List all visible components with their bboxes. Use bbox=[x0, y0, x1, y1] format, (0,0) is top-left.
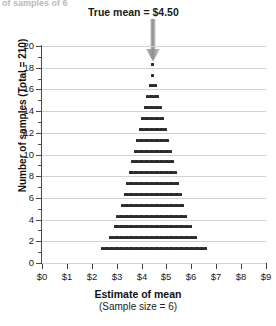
data-point bbox=[151, 63, 154, 66]
y-tick bbox=[38, 144, 41, 145]
gridline bbox=[42, 155, 266, 156]
x-axis-subtitle: (Sample size = 6) bbox=[0, 301, 276, 312]
x-tick bbox=[241, 264, 242, 269]
y-tick bbox=[38, 57, 41, 58]
x-tick bbox=[142, 264, 143, 269]
gridline bbox=[42, 89, 266, 90]
data-point bbox=[204, 247, 207, 250]
data-point bbox=[156, 95, 159, 98]
gridline bbox=[42, 220, 266, 221]
x-tick-label: $9 bbox=[251, 271, 276, 282]
y-tick bbox=[36, 220, 41, 221]
data-point bbox=[176, 182, 179, 185]
y-tick bbox=[36, 68, 41, 69]
gridline bbox=[42, 263, 266, 264]
true-mean-annotation: True mean = $4.50 bbox=[88, 6, 179, 18]
gridline bbox=[42, 176, 266, 177]
y-tick bbox=[38, 122, 41, 123]
data-point bbox=[189, 225, 192, 228]
data-point bbox=[174, 171, 177, 174]
y-tick bbox=[38, 165, 41, 166]
gridline bbox=[42, 111, 266, 112]
down-arrow-icon bbox=[145, 19, 161, 62]
y-tick bbox=[38, 252, 41, 253]
y-tick bbox=[38, 209, 41, 210]
data-point bbox=[164, 128, 167, 131]
data-point bbox=[171, 160, 174, 163]
y-axis-title: Number of samples (Total = 210) bbox=[17, 36, 28, 196]
cut-off-caption: of samples of 6 bbox=[2, 0, 68, 8]
gridline bbox=[42, 133, 266, 134]
data-point bbox=[154, 84, 157, 87]
y-tick bbox=[36, 89, 41, 90]
y-tick bbox=[38, 230, 41, 231]
x-tick bbox=[117, 264, 118, 269]
gridline bbox=[42, 241, 266, 242]
x-tick bbox=[42, 264, 43, 269]
data-point bbox=[184, 215, 187, 218]
x-tick bbox=[67, 264, 68, 269]
y-tick bbox=[38, 100, 41, 101]
y-tick bbox=[36, 155, 41, 156]
x-tick bbox=[92, 264, 93, 269]
y-tick bbox=[36, 111, 41, 112]
y-tick-label: 2 bbox=[2, 235, 34, 246]
y-tick bbox=[36, 176, 41, 177]
gridline bbox=[42, 198, 266, 199]
x-axis-title: Estimate of mean bbox=[0, 288, 276, 300]
data-point bbox=[151, 74, 154, 77]
data-point bbox=[181, 204, 184, 207]
data-point bbox=[194, 236, 197, 239]
gridline bbox=[42, 46, 266, 47]
x-tick bbox=[191, 264, 192, 269]
y-tick bbox=[38, 187, 41, 188]
gridline bbox=[42, 68, 266, 69]
data-point bbox=[159, 106, 162, 109]
y-tick bbox=[36, 46, 41, 47]
data-point bbox=[169, 150, 172, 153]
data-point bbox=[166, 139, 169, 142]
y-tick-label: 0 bbox=[2, 257, 34, 268]
y-tick-label: 4 bbox=[2, 214, 34, 225]
x-tick bbox=[166, 264, 167, 269]
dotplot-figure: of samples of 6 True mean = $4.50 024681… bbox=[0, 0, 276, 326]
y-tick bbox=[36, 263, 41, 264]
x-tick bbox=[266, 264, 267, 269]
y-tick bbox=[38, 79, 41, 80]
y-tick bbox=[36, 133, 41, 134]
y-tick bbox=[36, 241, 41, 242]
data-point bbox=[179, 193, 182, 196]
data-point bbox=[161, 117, 164, 120]
y-tick bbox=[36, 198, 41, 199]
x-tick bbox=[216, 264, 217, 269]
